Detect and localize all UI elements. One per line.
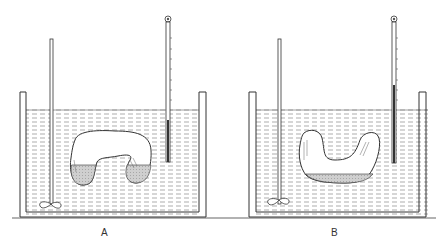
panel-a bbox=[20, 16, 206, 217]
diagram-canvas bbox=[0, 0, 446, 250]
water-bath-tank-b bbox=[249, 92, 428, 217]
panel-label-b: B bbox=[331, 227, 338, 238]
panel-label-a: A bbox=[101, 227, 108, 238]
panel-b bbox=[249, 16, 428, 217]
